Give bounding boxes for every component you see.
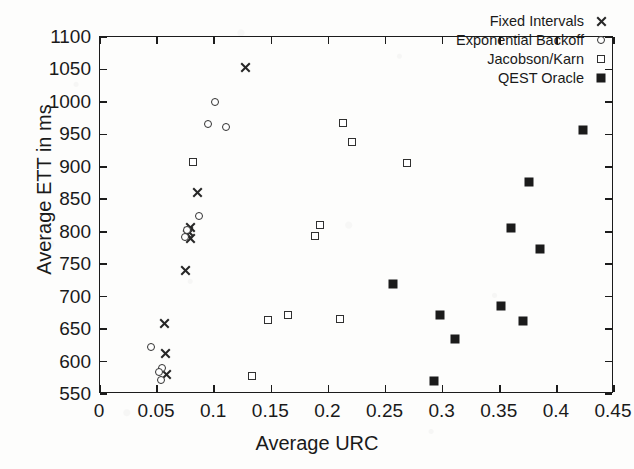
legend-item: Jacobson/Karn [456,50,618,68]
x-tick-top [271,37,273,44]
y-tick-label: 700 [5,287,91,306]
data-point-filled-square [430,377,439,386]
y-tick-label: 1000 [5,92,91,111]
y-tick-right [605,296,612,298]
y-tick-label: 800 [5,222,91,241]
x-tick-top [99,37,101,44]
y-tick-left [100,101,107,103]
data-point-circle [204,120,212,128]
x-tick-bottom [99,385,101,392]
legend-marker-cross-icon [584,14,618,28]
y-tick-left [100,263,107,265]
data-point-filled-square [518,317,527,326]
y-tick-right [605,361,612,363]
y-tick-left [100,134,107,136]
y-tick-label: 950 [5,124,91,143]
y-tick-right [605,101,612,103]
legend-marker-open-square-icon [584,52,618,66]
y-tick-right [605,166,612,168]
y-tick-left [100,231,107,233]
data-point-circle [147,343,155,351]
data-point-open-square [248,372,256,380]
y-tick-right [605,393,612,395]
y-tick-left [100,361,107,363]
legend-marker-filled-square-icon [584,71,618,85]
x-tick-top [328,37,330,44]
cross-icon [596,16,607,27]
data-point-circle [195,212,203,220]
data-point-cross [160,348,171,359]
data-point-filled-square [578,125,587,134]
legend-item-label: Exponential Backoff [456,33,584,48]
y-tick-label: 600 [5,352,91,371]
data-point-open-square [316,221,324,229]
x-tick-bottom [156,385,158,392]
x-tick-bottom [328,385,330,392]
y-tick-left [100,69,107,71]
data-point-circle [155,368,163,376]
data-point-cross [192,187,203,198]
x-tick-bottom [442,385,444,392]
legend-marker-circle-icon [584,33,618,47]
x-tick-bottom [385,385,387,392]
data-point-circle [222,123,230,131]
y-tick-right [605,231,612,233]
legend-item-label: Jacobson/Karn [487,52,584,67]
y-tick-left [100,166,107,168]
data-point-cross [240,62,251,73]
x-tick-bottom [613,385,615,392]
data-point-filled-square [524,178,533,187]
x-tick-top [442,37,444,44]
data-point-circle [157,376,165,384]
legend-item-label: Fixed Intervals [490,14,584,29]
legend-item-label: QEST Oracle [498,71,584,86]
x-axis-title: Average URC [0,432,634,455]
x-tick-label: 0.45 [573,401,634,420]
data-point-filled-square [388,280,397,289]
x-tick-bottom [271,385,273,392]
circle-icon [597,36,605,44]
data-point-cross [180,265,191,276]
data-point-filled-square [536,245,545,254]
x-tick-bottom [499,385,501,392]
y-tick-left [100,393,107,395]
data-point-cross [159,318,170,329]
data-point-open-square [336,315,344,323]
scatter-chart-figure: Average ETT in ms Average URC 5506006507… [0,0,634,469]
data-point-circle [211,98,219,106]
y-tick-left [100,36,107,38]
y-tick-left [100,198,107,200]
data-point-filled-square [506,223,515,232]
open-square-icon [597,55,605,63]
y-tick-label: 1100 [5,27,91,46]
x-tick-top [385,37,387,44]
x-tick-bottom [213,385,215,392]
y-tick-label: 650 [5,319,91,338]
data-point-filled-square [436,311,445,320]
data-point-open-square [264,316,272,324]
x-tick-top [156,37,158,44]
x-tick-top [213,37,215,44]
y-tick-label: 1050 [5,59,91,78]
data-point-open-square [189,158,197,166]
y-tick-left [100,296,107,298]
data-point-open-square [403,159,411,167]
legend-item: Fixed Intervals [456,12,618,30]
legend-item: Exponential Backoff [456,31,618,49]
y-tick-label: 750 [5,254,91,273]
chart-legend: Fixed IntervalsExponential BackoffJacobs… [450,10,622,90]
data-point-open-square [284,311,292,319]
data-point-filled-square [450,334,459,343]
x-tick-bottom [556,385,558,392]
y-tick-right [605,134,612,136]
legend-item: QEST Oracle [456,69,618,87]
y-tick-right [605,328,612,330]
y-tick-right [605,198,612,200]
data-point-open-square [348,138,356,146]
data-point-open-square [311,232,319,240]
y-tick-right [605,263,612,265]
filled-square-icon [597,74,606,83]
data-point-filled-square [496,302,505,311]
data-point-open-square [339,119,347,127]
y-tick-left [100,328,107,330]
